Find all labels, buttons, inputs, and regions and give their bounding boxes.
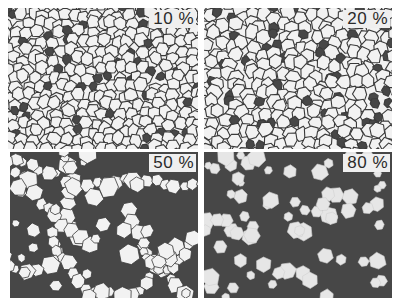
micrograph-panel-20-percent: 20 % <box>204 8 392 149</box>
microstructure-image <box>204 152 392 298</box>
micrograph-panel-10-percent: 10 % <box>8 8 198 149</box>
fraction-label: 10 % <box>149 10 196 28</box>
microstructure-image <box>204 8 392 149</box>
micrograph-panel-80-percent: 80 % <box>204 152 392 298</box>
fraction-label: 20 % <box>343 10 390 28</box>
microstructure-image <box>10 152 198 298</box>
fraction-label: 80 % <box>343 154 390 172</box>
microstructure-image <box>8 8 198 149</box>
fraction-label: 50 % <box>149 154 196 172</box>
micrograph-panel-50-percent: 50 % <box>10 152 198 298</box>
